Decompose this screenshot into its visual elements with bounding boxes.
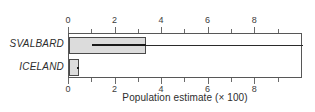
x-axis-title: Population estimate (× 100) <box>68 92 302 103</box>
top-tick-label: 8 <box>244 15 264 26</box>
median-line <box>92 44 146 46</box>
axis-tick-minor <box>231 78 232 82</box>
axis-tick-minor <box>91 78 92 82</box>
axis-tick-minor <box>138 78 139 82</box>
axis-tick-minor <box>184 78 185 82</box>
category-label-iceland: ICELAND <box>19 61 64 72</box>
top-tick-label: 4 <box>151 15 171 26</box>
top-tick-label: 6 <box>198 15 218 26</box>
boxplot-chart: 02468 SVALBARDICELAND 02468 Population e… <box>0 0 315 112</box>
top-tick-label: 2 <box>105 15 125 26</box>
plot-area <box>68 33 302 78</box>
top-tick-label: 0 <box>58 15 78 26</box>
axis-tick-minor <box>278 78 279 82</box>
median-line <box>77 67 79 69</box>
category-label-svalbard: SVALBARD <box>10 38 64 49</box>
